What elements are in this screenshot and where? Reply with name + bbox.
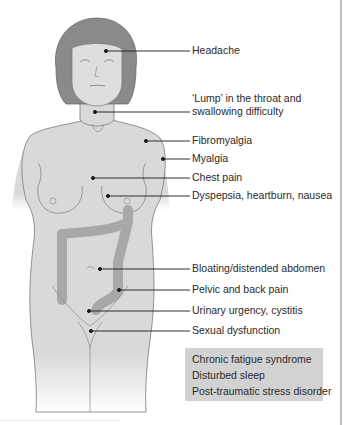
label-pelvic-back-pain: Pelvic and back pain bbox=[192, 283, 288, 296]
bottom-divider bbox=[0, 420, 120, 421]
label-sexual-dysfunction: Sexual dysfunction bbox=[192, 324, 280, 337]
systemic-item: Post-traumatic stress disorder bbox=[192, 385, 331, 398]
page-edge-rule bbox=[340, 0, 342, 425]
systemic-item: Chronic fatigue syndrome bbox=[192, 353, 312, 366]
label-chest-pain: Chest pain bbox=[192, 171, 242, 184]
label-urinary: Urinary urgency, cystitis bbox=[192, 304, 303, 317]
systemic-item: Disturbed sleep bbox=[192, 369, 265, 382]
label-headache: Headache bbox=[192, 44, 240, 57]
label-bloating: Bloating/distended abdomen bbox=[192, 262, 325, 275]
label-lump-line-2: swallowing difficulty bbox=[192, 105, 283, 118]
label-myalgia: Myalgia bbox=[192, 152, 228, 165]
label-fibromyalgia: Fibromyalgia bbox=[192, 134, 252, 147]
label-dyspepsia: Dyspepsia, heartburn, nausea bbox=[192, 189, 332, 202]
systemic-symptoms-box: Chronic fatigue syndrome Disturbed sleep… bbox=[185, 348, 323, 401]
label-lump-line-1: ‘Lump’ in the throat and bbox=[192, 92, 301, 105]
